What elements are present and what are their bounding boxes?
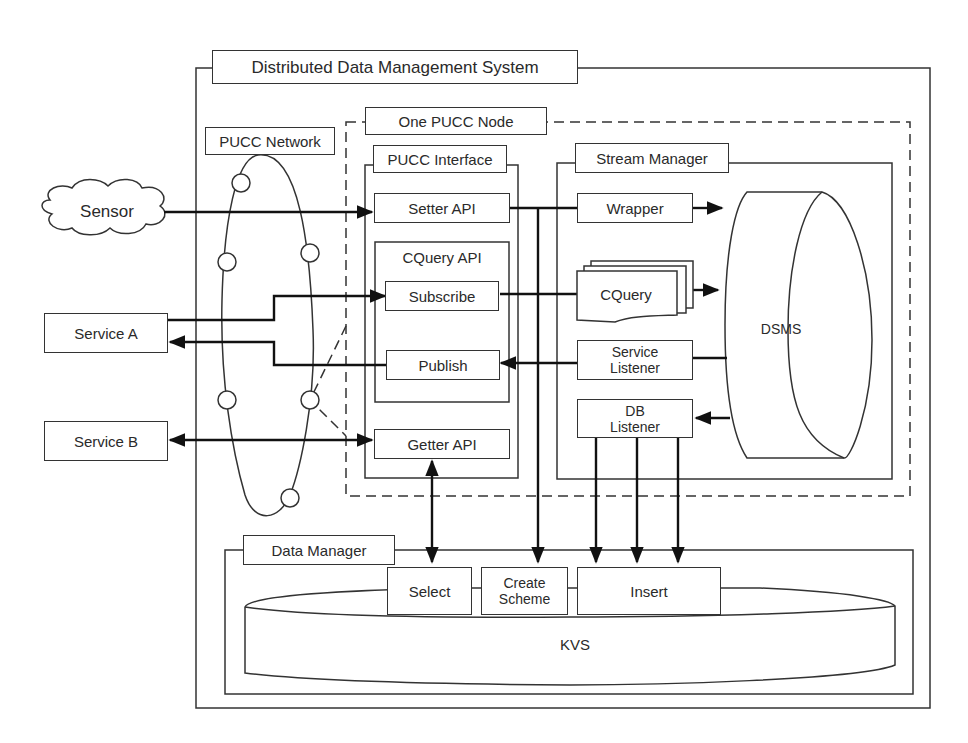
network-node [232, 174, 250, 192]
network-node [301, 244, 319, 262]
node-link-dashed [310, 326, 346, 436]
system-title: Distributed Data Management System [212, 50, 578, 84]
service-listener-box: Service Listener [577, 340, 693, 380]
network-node [218, 253, 236, 271]
select-box: Select [387, 567, 472, 615]
insert-box: Insert [577, 567, 721, 615]
kvs-label: KVS [540, 632, 610, 656]
create-scheme-box: Create Scheme [481, 567, 568, 615]
dsms-label: DSMS [748, 318, 814, 340]
db-listener-line1: DB [625, 403, 644, 419]
pucc-network-title: PUCC Network [205, 127, 335, 155]
service-listener-line1: Service [612, 344, 659, 360]
network-node [281, 489, 299, 507]
pucc-interface-title: PUCC Interface [373, 145, 507, 173]
service-listener-line2: Listener [610, 360, 660, 376]
create-scheme-line2: Scheme [499, 591, 550, 607]
create-scheme-line1: Create [503, 575, 545, 591]
pucc-node-title: One PUCC Node [365, 107, 547, 135]
network-node [218, 391, 236, 409]
data-manager-frame [225, 550, 913, 694]
stream-manager-title: Stream Manager [575, 143, 729, 173]
network-node [301, 391, 319, 409]
subscribe-box: Subscribe [385, 281, 499, 311]
db-listener-box: DB Listener [577, 399, 693, 438]
service-b-box: Service B [44, 421, 168, 461]
cquery-api-title: CQuery API [376, 246, 508, 268]
cquery-label: CQuery [584, 282, 668, 306]
db-listener-line2: Listener [610, 419, 660, 435]
setter-api-box: Setter API [374, 193, 510, 223]
publish-box: Publish [386, 350, 500, 380]
data-manager-title: Data Manager [243, 535, 395, 565]
service-a-box: Service A [44, 313, 168, 353]
wrapper-box: Wrapper [577, 193, 693, 223]
pucc-network-ring [222, 155, 314, 516]
getter-api-box: Getter API [374, 429, 510, 459]
sensor-label: Sensor [62, 196, 152, 226]
